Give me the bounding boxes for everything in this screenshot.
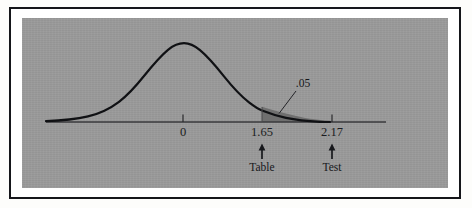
tick-label-zero: 0	[180, 125, 186, 139]
normal-distribution-figure: 0 1.65 2.17 .05 Table Test	[0, 0, 472, 208]
test-caption: Test	[323, 161, 343, 173]
alpha-leader-line	[279, 91, 296, 114]
test-arrow-head	[329, 144, 336, 151]
normal-curve	[46, 43, 330, 122]
table-annotation: Table	[249, 144, 274, 174]
alpha-label: .05	[296, 77, 311, 89]
test-annotation: Test	[323, 144, 343, 174]
distribution-plot: 0 1.65 2.17 .05 Table Test	[0, 0, 472, 208]
table-arrow-head	[259, 144, 266, 151]
tick-label-critical-value: 1.65	[251, 125, 273, 139]
table-caption: Table	[249, 161, 274, 173]
tick-label-test-statistic: 2.17	[321, 125, 343, 139]
